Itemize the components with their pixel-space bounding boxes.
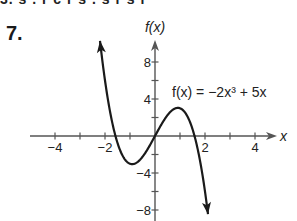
y-tick-label: 4 [144,92,151,107]
y-tick-label: −8 [136,203,151,218]
x-tick-label: −4 [48,140,63,155]
x-tick-label: 2 [201,140,208,155]
cubic-function-graph: −4−22484−4−8 x f(x) f(x) = −2x³ + 5x [0,0,297,221]
y-tick-label: 8 [144,55,151,70]
function-equation-label: f(x) = −2x³ + 5x [172,84,267,100]
x-axis-label: x [279,128,288,144]
x-tick-label: 4 [251,140,258,155]
axes [30,40,277,221]
y-axis-label: f(x) [145,19,165,35]
function-curve [100,41,208,214]
x-tick-label: −2 [98,140,113,155]
y-tick-label: −4 [136,166,151,181]
